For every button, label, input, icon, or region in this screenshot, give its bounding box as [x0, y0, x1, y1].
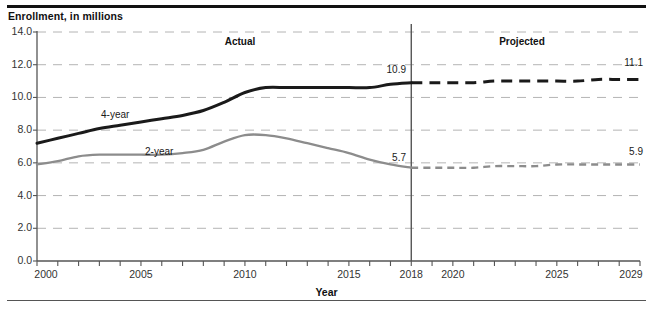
data-label-four-year-2029: 11.1 — [603, 57, 643, 68]
y-tick-label: 8.0 — [2, 123, 32, 135]
y-tick-label: 10.0 — [2, 90, 32, 102]
region-label-actual: Actual — [180, 36, 300, 47]
series-label-two-year: 2-year — [145, 146, 173, 157]
y-tick-label: 6.0 — [2, 156, 32, 168]
data-label-four-year-2018: 10.9 — [366, 64, 406, 75]
y-tick-label: 4.0 — [2, 189, 32, 201]
y-tick-label: 12.0 — [2, 58, 32, 70]
data-label-two-year-2029: 5.9 — [603, 146, 643, 157]
axes — [33, 31, 640, 261]
x-tick-label: 2000 — [16, 268, 76, 280]
chart-figure: Enrollment, in millions 14.012.010.08.06… — [0, 0, 653, 310]
region-label-projected: Projected — [462, 36, 582, 47]
series-lines — [37, 79, 640, 168]
x-axis-title: Year — [0, 286, 653, 298]
y-tick-label: 0.0 — [2, 254, 32, 266]
x-tick-label: 2029 — [601, 268, 653, 280]
x-tick-label: 2010 — [215, 268, 275, 280]
x-tick-marks — [37, 261, 640, 266]
x-tick-label: 2005 — [111, 268, 171, 280]
x-tick-label: 2020 — [423, 268, 483, 280]
data-label-two-year-2018: 5.7 — [366, 152, 406, 163]
y-tick-label: 2.0 — [2, 221, 32, 233]
series-label-four-year: 4-year — [101, 109, 129, 120]
x-tick-label: 2025 — [527, 268, 587, 280]
x-tick-label: 2015 — [319, 268, 379, 280]
y-tick-label: 14.0 — [2, 25, 32, 37]
gridlines — [37, 32, 640, 228]
